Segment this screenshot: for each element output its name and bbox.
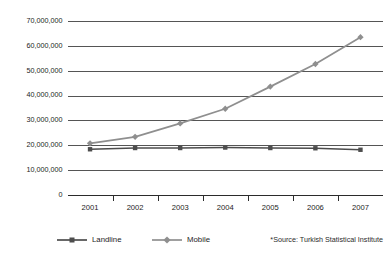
x-axis-tick-labels: 2001200220032004200520062007 xyxy=(82,203,369,212)
data-point-marker xyxy=(133,146,137,150)
chart-plot-area: 010,000,00020,000,00030,000,00040,000,00… xyxy=(0,0,389,257)
y-axis-tick-label: 50,000,000 xyxy=(27,66,63,75)
y-axis-tick-labels: 010,000,00020,000,00030,000,00040,000,00… xyxy=(27,16,63,199)
x-axis-tick-label: 2007 xyxy=(352,203,369,212)
data-series-group xyxy=(87,34,364,152)
series-landline xyxy=(88,145,363,152)
y-axis-tick-label: 20,000,000 xyxy=(27,140,63,149)
x-axis-tick-label: 2004 xyxy=(217,203,234,212)
y-axis-tick-label: 0 xyxy=(59,190,63,199)
source-note: *Source: Turkish Statistical Institute xyxy=(270,235,383,244)
legend-item-landline[interactable]: Landline xyxy=(57,235,121,244)
data-point-marker xyxy=(132,134,138,140)
x-axis-tick-label: 2001 xyxy=(82,203,99,212)
y-axis-tick-label: 60,000,000 xyxy=(27,41,63,50)
data-point-marker xyxy=(88,147,92,151)
y-axis-tick-label: 40,000,000 xyxy=(27,90,63,99)
legend-label: Mobile xyxy=(187,235,210,244)
data-point-marker xyxy=(313,146,317,150)
legend-label: Landline xyxy=(92,235,121,244)
legend-marker xyxy=(163,236,170,243)
data-point-marker xyxy=(268,146,272,150)
data-point-marker xyxy=(358,148,362,152)
legend-item-mobile[interactable]: Mobile xyxy=(152,235,210,244)
source-note-group: *Source: Turkish Statistical Institute xyxy=(270,235,383,244)
x-axis-tick-label: 2002 xyxy=(127,203,144,212)
x-axis-tick-label: 2003 xyxy=(172,203,189,212)
x-axis-tick-label: 2005 xyxy=(262,203,279,212)
data-point-marker xyxy=(223,145,227,149)
y-axis-tick-label: 70,000,000 xyxy=(27,16,63,25)
chart-legend: LandlineMobile xyxy=(57,235,210,244)
telecom-subscribers-line-chart: 010,000,00020,000,00030,000,00040,000,00… xyxy=(0,0,389,257)
data-point-marker xyxy=(177,120,183,126)
y-axis-tick-label: 10,000,000 xyxy=(27,165,63,174)
x-axis-tick-label: 2006 xyxy=(307,203,324,212)
legend-marker xyxy=(70,238,75,243)
series-mobile xyxy=(87,34,364,146)
series-line xyxy=(90,37,360,143)
y-axis-tick-label: 30,000,000 xyxy=(27,115,63,124)
data-point-marker xyxy=(222,106,228,112)
data-point-marker xyxy=(267,83,273,89)
x-axis xyxy=(68,196,384,201)
data-point-marker xyxy=(178,146,182,150)
